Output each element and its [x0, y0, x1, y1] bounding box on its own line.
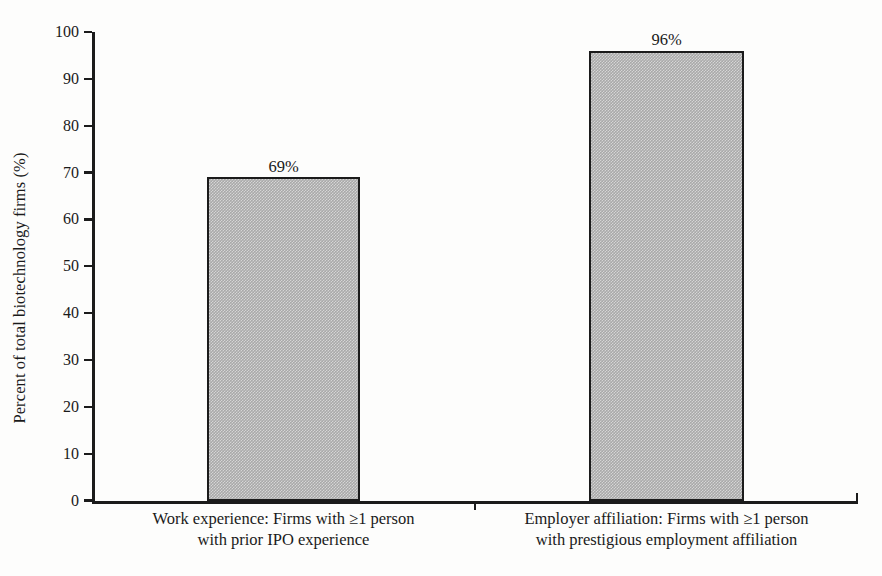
- bar-value-label-0: 69%: [268, 159, 298, 176]
- y-axis-tick-100: 100: [84, 31, 92, 33]
- y-axis-tick-0: 0: [84, 499, 92, 501]
- y-axis-tick-label-30: 30: [63, 352, 79, 368]
- x-category-label-0-line1: Work experience: Firms with ≥1 person: [96, 508, 471, 529]
- y-axis-title: Percent of total biotechnology firms (%): [0, 0, 40, 576]
- y-axis-tick-label-60: 60: [63, 211, 79, 227]
- x-category-label-1: Employer affiliation: Firms with ≥1 pers…: [475, 508, 858, 568]
- y-axis-tick-label-50: 50: [63, 258, 79, 274]
- y-axis-tick-label-80: 80: [63, 117, 79, 133]
- y-axis-tick-label-40: 40: [63, 305, 79, 321]
- y-axis-tick-40: 40: [84, 312, 92, 314]
- y-axis-tick-10: 10: [84, 453, 92, 455]
- y-axis-tick-80: 80: [84, 125, 92, 127]
- y-axis-tick-60: 60: [84, 218, 92, 220]
- y-axis-tick-label-70: 70: [63, 164, 79, 180]
- y-axis-line: [92, 32, 95, 503]
- bar-0: 69%: [207, 177, 360, 500]
- plot-area: 0102030405060708090100 69%96%: [92, 32, 858, 503]
- y-axis-tick-70: 70: [84, 171, 92, 173]
- x-category-label-1-line1: Employer affiliation: Firms with ≥1 pers…: [479, 508, 854, 529]
- y-axis-tick-50: 50: [84, 265, 92, 267]
- x-category-label-1-line2: with prestigious employment affiliation: [479, 529, 854, 550]
- bar-1: 96%: [589, 51, 744, 501]
- y-axis-tick-label-90: 90: [63, 71, 79, 87]
- bar-value-label-1: 96%: [651, 32, 681, 49]
- x-axis-category-labels: Work experience: Firms with ≥1 person wi…: [92, 508, 858, 568]
- y-axis-tick-label-0: 0: [71, 492, 79, 508]
- y-axis-tick-label-100: 100: [55, 24, 79, 40]
- chart-figure: Percent of total biotechnology firms (%)…: [0, 0, 882, 576]
- x-category-label-0-line2: with prior IPO experience: [96, 529, 471, 550]
- y-axis-tick-30: 30: [84, 359, 92, 361]
- x-axis-end-tick: [856, 493, 859, 503]
- y-axis-tick-20: 20: [84, 406, 92, 408]
- y-axis-tick-label-20: 20: [63, 398, 79, 414]
- y-axis-tick-label-10: 10: [63, 445, 79, 461]
- x-category-label-0: Work experience: Firms with ≥1 person wi…: [92, 508, 475, 568]
- y-axis-tick-90: 90: [84, 78, 92, 80]
